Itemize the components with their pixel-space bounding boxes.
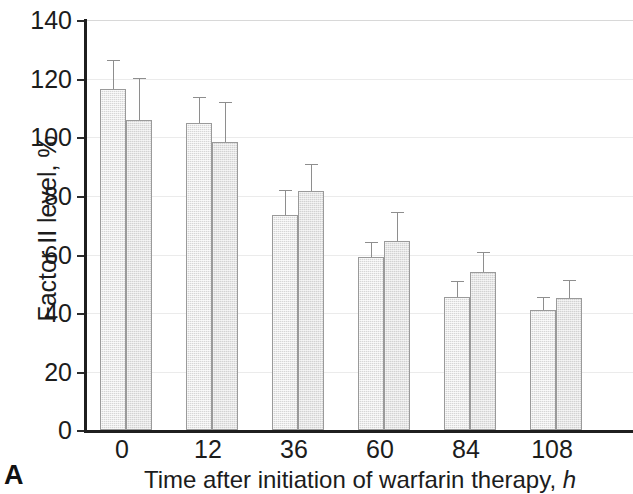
bar bbox=[530, 310, 556, 430]
error-bar-cap bbox=[133, 78, 146, 79]
bar bbox=[384, 241, 410, 430]
error-bar bbox=[457, 282, 458, 297]
bar bbox=[212, 142, 238, 430]
error-bar bbox=[199, 98, 200, 123]
x-axis-title-text: Time after initiation of warfarin therap… bbox=[144, 466, 556, 493]
y-tick-label-0: 0 bbox=[10, 418, 72, 443]
error-bar-cap bbox=[563, 280, 576, 281]
x-tick-label-36: 36 bbox=[254, 437, 334, 462]
error-bar-cap bbox=[279, 190, 292, 191]
x-tick-label-60: 60 bbox=[340, 437, 420, 462]
error-bar-cap bbox=[365, 242, 378, 243]
bar bbox=[444, 297, 470, 430]
error-bar bbox=[311, 165, 312, 191]
error-bar bbox=[113, 61, 114, 89]
error-bar-cap bbox=[451, 281, 464, 282]
bar bbox=[272, 215, 298, 430]
error-bar-cap bbox=[391, 212, 404, 213]
error-bar-cap bbox=[107, 60, 120, 61]
error-bar bbox=[569, 281, 570, 299]
bar-group bbox=[186, 20, 238, 430]
y-tick-label-20: 20 bbox=[10, 360, 72, 385]
x-tick-label-84: 84 bbox=[426, 437, 506, 462]
bar bbox=[298, 191, 324, 430]
panel-label: A bbox=[4, 462, 24, 489]
error-bar-cap bbox=[537, 297, 550, 298]
error-bar bbox=[543, 298, 544, 310]
y-tick-label-120: 120 bbox=[10, 67, 72, 92]
x-axis-title-unit: h bbox=[563, 466, 576, 493]
bar-group bbox=[530, 20, 582, 430]
error-bar bbox=[285, 191, 286, 214]
y-tick-label-100: 100 bbox=[10, 125, 72, 150]
bar bbox=[556, 298, 582, 430]
bar bbox=[126, 120, 152, 430]
y-tick-label-80: 80 bbox=[10, 184, 72, 209]
bar bbox=[470, 272, 496, 430]
plot-area bbox=[87, 20, 633, 430]
error-bar bbox=[483, 253, 484, 272]
error-bar bbox=[139, 79, 140, 120]
error-bar bbox=[225, 103, 226, 141]
error-bar bbox=[397, 213, 398, 241]
bar bbox=[100, 89, 126, 430]
bar-group bbox=[272, 20, 324, 430]
x-axis-title: Time after initiation of warfarin therap… bbox=[87, 466, 633, 494]
x-tick-label-0: 0 bbox=[82, 437, 162, 462]
x-axis-line bbox=[84, 430, 633, 433]
error-bar-cap bbox=[477, 252, 490, 253]
bar-group bbox=[100, 20, 152, 430]
error-bar-cap bbox=[193, 97, 206, 98]
bar-group bbox=[444, 20, 496, 430]
x-tick-label-12: 12 bbox=[168, 437, 248, 462]
bar bbox=[186, 123, 212, 431]
bar-group bbox=[358, 20, 410, 430]
x-tick-label-108: 108 bbox=[512, 437, 592, 462]
error-bar-cap bbox=[305, 164, 318, 165]
error-bar bbox=[371, 243, 372, 258]
y-tick-label-60: 60 bbox=[10, 243, 72, 268]
bar bbox=[358, 257, 384, 430]
y-tick-label-40: 40 bbox=[10, 301, 72, 326]
error-bar-cap bbox=[219, 102, 232, 103]
y-tick-label-140: 140 bbox=[10, 8, 72, 33]
